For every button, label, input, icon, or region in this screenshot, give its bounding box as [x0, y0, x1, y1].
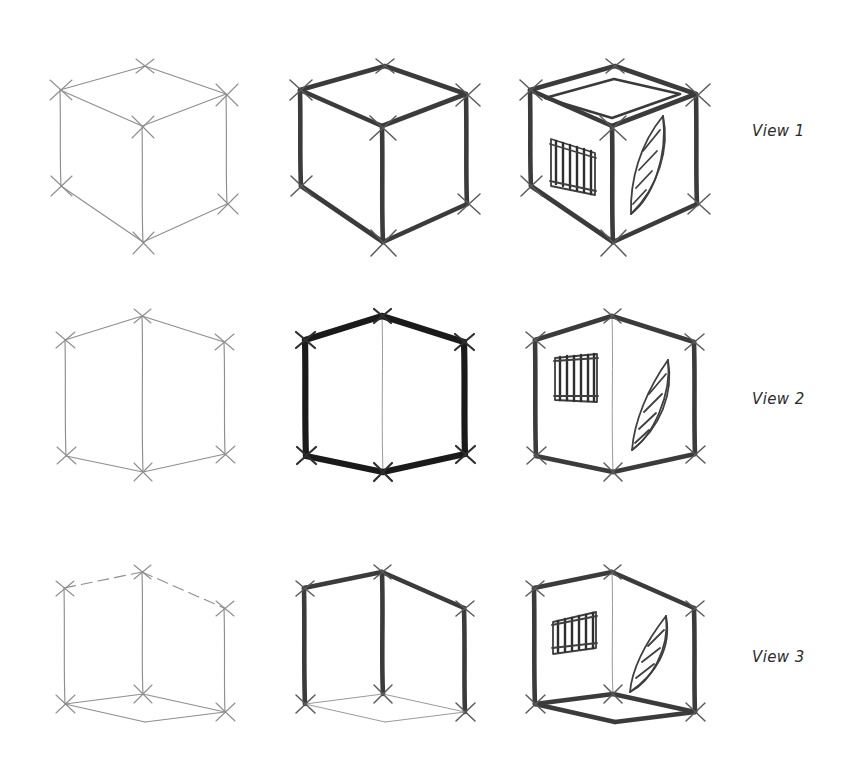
barred-window-icon	[554, 354, 598, 402]
sketch-sheet: View 1	[0, 0, 848, 769]
sketch-cell-r1c1[interactable]	[30, 18, 260, 268]
view-label-2: View 2	[752, 390, 805, 408]
corner-cross-marks	[296, 565, 475, 721]
cube-wireframe-light	[60, 66, 227, 242]
sketch-cell-r3c2[interactable]	[270, 550, 500, 750]
barred-window-icon	[550, 139, 596, 195]
sketch-cell-r3c1[interactable]	[30, 550, 260, 750]
cube-outline-bold	[305, 316, 465, 472]
cube-outline-bold	[300, 66, 467, 242]
sketch-cell-r3c3[interactable]	[500, 550, 730, 750]
cube-outline-bold	[304, 572, 465, 722]
barred-window-icon	[552, 612, 597, 654]
leaf-icon	[630, 616, 667, 692]
sketch-cell-r2c3[interactable]	[500, 300, 730, 500]
sketch-cell-r1c2[interactable]	[270, 18, 500, 268]
sketch-cell-r2c2[interactable]	[270, 300, 500, 500]
cube-wireframe-light	[64, 572, 225, 722]
sketch-cell-r1c3[interactable]	[500, 18, 730, 268]
corner-cross-marks	[56, 565, 235, 721]
view-label-1: View 1	[752, 122, 805, 140]
cube-wireframe-light	[65, 316, 225, 472]
top-opening-icon	[545, 79, 680, 118]
leaf-icon	[631, 116, 665, 214]
leaf-icon	[632, 360, 669, 450]
sketch-cell-r2c1[interactable]	[30, 300, 260, 500]
view-label-3: View 3	[752, 648, 805, 666]
